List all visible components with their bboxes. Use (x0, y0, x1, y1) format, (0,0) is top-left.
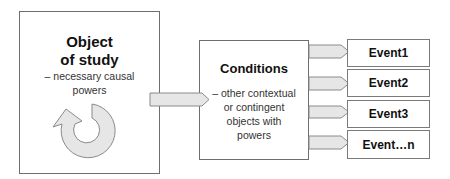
event-box-3: Event3 (347, 100, 430, 128)
event-box-1: Event1 (347, 39, 430, 67)
arrow-to-event3 (309, 106, 349, 118)
arrow-to-event1 (309, 45, 349, 58)
event-box-n: Event…n (347, 130, 430, 159)
arrow-to-event2 (309, 77, 349, 90)
arrow-to-event-n (309, 136, 349, 149)
event-box-2: Event2 (347, 69, 430, 97)
circular-arrow-icon (53, 104, 115, 158)
arrow-object-to-conditions (150, 93, 209, 106)
